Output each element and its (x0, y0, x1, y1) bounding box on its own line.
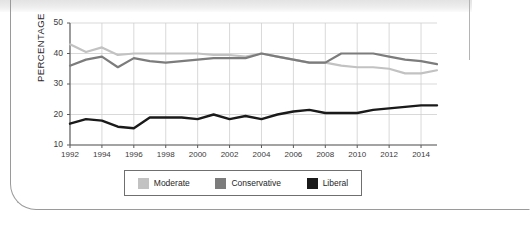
x-axis-tick-label: 2010 (340, 150, 374, 159)
x-axis-tick-label: 2004 (244, 150, 278, 159)
x-axis-tick-label: 2006 (276, 150, 310, 159)
x-axis-tick-label: 1996 (117, 150, 151, 159)
y-axis-tick-label: 50 (39, 17, 63, 27)
x-axis-tick-label: 1998 (149, 150, 183, 159)
y-axis-tick-label: 40 (39, 48, 63, 58)
y-axis-tick-label: 30 (39, 78, 63, 88)
legend-label-moderate: Moderate (154, 178, 190, 188)
x-axis-tick-label: 2008 (308, 150, 342, 159)
legend-swatch-moderate (138, 178, 149, 189)
x-axis-tick-label: 2000 (181, 150, 215, 159)
y-axis-tick-label: 20 (39, 109, 63, 119)
x-axis-tick-label: 2014 (404, 150, 438, 159)
x-axis-tick-label: 1992 (53, 150, 87, 159)
x-axis-tick-label: 2002 (213, 150, 247, 159)
legend-item-moderate[interactable]: Moderate (138, 178, 190, 189)
chart-legend: Moderate Conservative Liberal (124, 170, 362, 196)
x-axis-tick-label: 2012 (372, 150, 406, 159)
legend-swatch-liberal (307, 178, 318, 189)
legend-item-liberal[interactable]: Liberal (307, 178, 349, 189)
legend-label-liberal: Liberal (323, 178, 349, 188)
legend-swatch-conservative (215, 178, 226, 189)
x-axis-tick-label: 1994 (85, 150, 119, 159)
legend-label-conservative: Conservative (231, 178, 281, 188)
y-axis-tick-label: 10 (39, 139, 63, 149)
legend-item-conservative[interactable]: Conservative (215, 178, 281, 189)
